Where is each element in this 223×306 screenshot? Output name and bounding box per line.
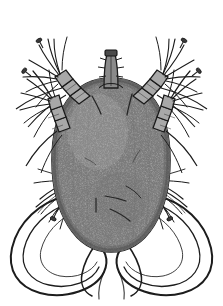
chelicerae [105, 50, 117, 56]
mite-micrograph-figure: Mite photomicrograph Mite Acari dorsal-v… [0, 0, 223, 306]
micrograph-canvas [0, 0, 223, 306]
